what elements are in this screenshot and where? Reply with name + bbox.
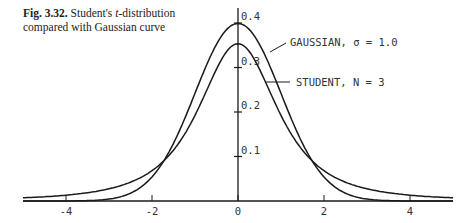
y-tick-label: 0.2 bbox=[241, 99, 260, 111]
x-tick-label: 4 bbox=[407, 205, 413, 217]
x-tick-label: 2 bbox=[321, 205, 327, 217]
x-tick-label: 0 bbox=[235, 205, 241, 217]
y-tick-label: 0.1 bbox=[241, 144, 260, 156]
gaussian-leader-line bbox=[270, 43, 286, 52]
x-tick-label: -2 bbox=[146, 205, 159, 217]
student-label: STUDENT, N = 3 bbox=[296, 76, 385, 88]
y-tick-label: 0.4 bbox=[241, 10, 260, 22]
gaussian-label: GAUSSIAN, σ = 1.0 bbox=[290, 36, 397, 48]
x-tick-label: -4 bbox=[60, 205, 73, 217]
chart: -4-2024 0.10.20.30.4 GAUSSIAN, σ = 1.0 S… bbox=[0, 0, 473, 223]
